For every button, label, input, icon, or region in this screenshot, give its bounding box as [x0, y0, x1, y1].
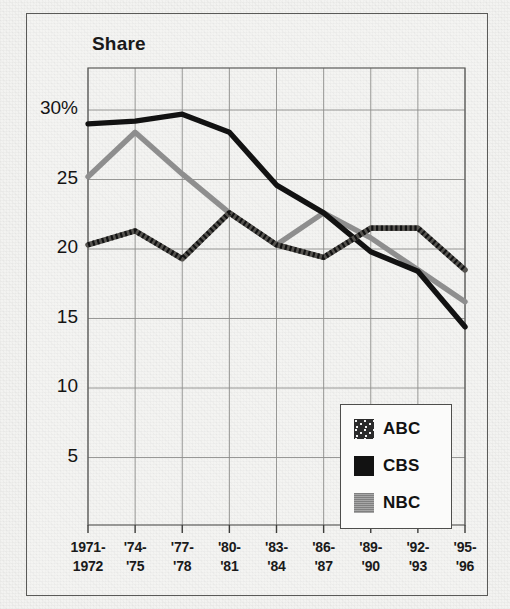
y-tick-label: 15 [14, 306, 78, 328]
x-tick-label-start-year: 1971- [61, 538, 115, 557]
x-tick-label: '92-'93 [391, 538, 445, 576]
solid-black-swatch [354, 456, 374, 476]
x-tick-label-end-year: '93 [391, 557, 445, 576]
x-tick-label-end-year: '87 [297, 557, 351, 576]
x-tick-label: '77-'78 [155, 538, 209, 576]
legend-item-cbs: CBS [354, 456, 420, 476]
x-tick-label: '86-'87 [297, 538, 351, 576]
x-tick-label-start-year: '95- [438, 538, 492, 557]
x-tick-label: 1971-1972 [61, 538, 115, 576]
legend-label: NBC [383, 493, 420, 513]
legend-item-nbc: NBC [354, 493, 420, 513]
y-tick-label: 10 [14, 375, 78, 397]
legend-label: CBS [383, 456, 420, 476]
x-tick-label: '80-'81 [202, 538, 256, 576]
x-tick-label: '95-'96 [438, 538, 492, 576]
x-tick-label-end-year: '84 [250, 557, 304, 576]
y-tick-label: 5 [14, 445, 78, 467]
y-tick-label: 30% [14, 97, 78, 119]
y-tick-label: 20 [14, 236, 78, 258]
x-tick-label-end-year: '81 [202, 557, 256, 576]
x-tick-label-start-year: '89- [344, 538, 398, 557]
legend-label: ABC [383, 419, 420, 439]
x-tick-label: '83-'84 [250, 538, 304, 576]
x-tick-label-start-year: '83- [250, 538, 304, 557]
x-tick-label-end-year: '90 [344, 557, 398, 576]
x-tick-label-start-year: '77- [155, 538, 209, 557]
legend-item-abc: ABC [354, 419, 420, 439]
x-tick-label-end-year: 1972 [61, 557, 115, 576]
y-tick-label: 25 [14, 167, 78, 189]
x-tick-label: '89-'90 [344, 538, 398, 576]
dotted-dark-swatch [354, 419, 374, 439]
x-tick-label-end-year: '96 [438, 557, 492, 576]
x-tick-label-start-year: '92- [391, 538, 445, 557]
gray-swatch [354, 493, 374, 513]
scan-page-background: Share 30%252015105 1971-1972'74-'75'77-'… [0, 0, 510, 609]
x-tick-label: '74-'75 [108, 538, 162, 576]
x-tick-label-end-year: '78 [155, 557, 209, 576]
x-tick-label-start-year: '80- [202, 538, 256, 557]
chart-legend: ABCCBSNBC [340, 404, 452, 529]
x-tick-label-end-year: '75 [108, 557, 162, 576]
x-tick-label-start-year: '74- [108, 538, 162, 557]
x-tick-label-start-year: '86- [297, 538, 351, 557]
